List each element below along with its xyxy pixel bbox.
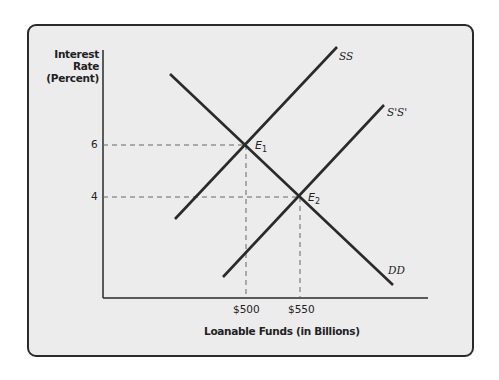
x-tick-550: $550 [288, 303, 315, 315]
x-tick-500: $500 [233, 303, 260, 315]
e2-subscript: 2 [315, 197, 320, 206]
sprime-label: S'S' [387, 106, 407, 118]
ss-label: SS [339, 50, 353, 62]
y-axis-label-line-3: (Percent) [46, 72, 99, 84]
e2-letter: E [308, 191, 315, 204]
e1-subscript: 1 [262, 145, 267, 154]
supply-curve-sprime [223, 105, 384, 277]
dd-label: DD [388, 264, 405, 276]
y-tick-4: 4 [91, 190, 98, 202]
e1-letter: E [255, 139, 262, 152]
y-axis-label-line-2: Rate [46, 60, 99, 72]
e2-label: E2 [308, 191, 320, 206]
x-axis-label: Loanable Funds (in Billions) [204, 325, 360, 337]
y-tick-6: 6 [91, 138, 98, 150]
e1-label: E1 [255, 139, 267, 154]
y-axis-label: Interest Rate (Percent) [46, 48, 99, 84]
y-axis-label-line-1: Interest [46, 48, 99, 60]
